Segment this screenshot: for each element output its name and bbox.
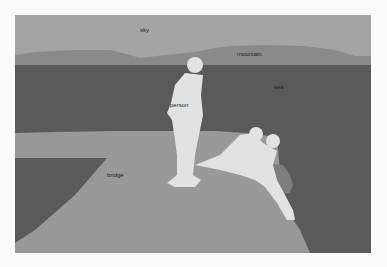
label-sea: sea	[274, 84, 284, 90]
label-sky: sky	[140, 27, 149, 33]
segmentation-mask	[15, 15, 371, 253]
label-bridge: bridge	[107, 172, 124, 178]
label-mountain: mountain	[237, 51, 262, 57]
label-person: person	[170, 102, 188, 108]
segmentation-image: sky mountain sea person bridge	[15, 15, 371, 253]
